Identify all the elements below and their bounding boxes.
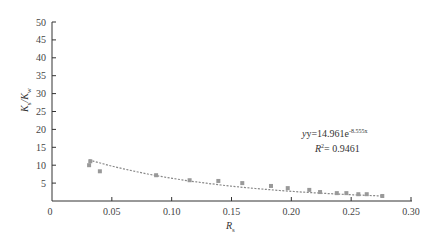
y-ticks: 5101520253035404550: [36, 17, 56, 189]
y-axis-label: Ks/Kw: [19, 87, 33, 113]
data-point: [318, 190, 322, 194]
data-point: [335, 191, 339, 195]
x-tick-label: 0.20: [283, 206, 301, 217]
y-tick-label: 45: [36, 34, 46, 45]
x-tick-label: 0.10: [163, 206, 181, 217]
r-squared-label: R2= 0.9461: [314, 143, 360, 154]
y-tick-label: 10: [36, 160, 46, 171]
data-point: [269, 184, 273, 188]
data-point: [380, 194, 384, 198]
y-tick-label: 35: [36, 70, 46, 81]
x-tick-label: 0.05: [103, 206, 121, 217]
data-points: [87, 159, 384, 198]
data-point: [344, 191, 348, 195]
data-point: [98, 169, 102, 173]
data-point: [87, 163, 91, 167]
data-point: [240, 181, 244, 185]
x-tick-label: 0.25: [342, 206, 360, 217]
data-point: [356, 192, 360, 196]
data-point: [188, 178, 192, 182]
chart-canvas: 5101520253035404550 00.050.100.150.200.2…: [0, 0, 434, 246]
equation-label: yy=14.961e-8.555x: [301, 128, 368, 139]
y-tick-label: 15: [36, 142, 46, 153]
y-tick-label: 20: [36, 124, 46, 135]
data-point: [286, 186, 290, 190]
data-point: [307, 188, 311, 192]
y-tick-label: 40: [36, 52, 46, 63]
x-tick-label: 0.30: [402, 206, 420, 217]
data-point: [216, 179, 220, 183]
y-tick-label: 50: [36, 17, 46, 28]
axes: [52, 22, 412, 201]
data-point: [154, 173, 158, 177]
x-axis-label: Rs: [225, 220, 235, 234]
y-tick-label: 5: [41, 178, 46, 189]
trendline: [89, 160, 382, 196]
y-tick-label: 30: [36, 88, 46, 99]
data-point: [365, 192, 369, 196]
x-ticks: 00.050.100.150.200.250.30: [48, 197, 420, 217]
data-point: [88, 159, 92, 163]
y-tick-label: 25: [36, 106, 46, 117]
x-tick-label: 0.15: [223, 206, 241, 217]
x-tick-label: 0: [48, 206, 53, 217]
